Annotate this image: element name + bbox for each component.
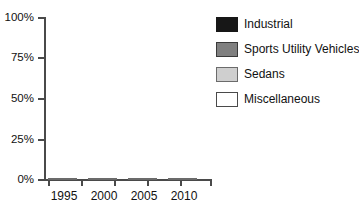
bar-2000[interactable] xyxy=(88,178,117,180)
legend-label-industrial: Industrial xyxy=(244,18,293,31)
bar-2005[interactable] xyxy=(128,178,157,180)
chart-legend: Industrial Sports Utility Vehicles Sedan… xyxy=(216,14,347,114)
y-tick-label-100: 100% xyxy=(5,12,34,24)
bar-segment-2005-miscellaneous xyxy=(128,179,157,180)
legend-swatch-industrial-icon xyxy=(216,17,238,32)
plot-area xyxy=(44,18,207,180)
x-tick-mark-2 xyxy=(114,181,116,186)
y-tick-label-50: 50% xyxy=(11,93,34,105)
legend-item-sports-utility-vehicles[interactable]: Sports Utility Vehicles xyxy=(216,39,347,60)
x-tick-label-1995: 1995 xyxy=(42,190,86,202)
x-tick-label-2005: 2005 xyxy=(122,190,166,202)
legend-item-sedans[interactable]: Sedans xyxy=(216,64,347,85)
legend-label-sedans: Sedans xyxy=(244,68,285,81)
x-tick-label-2000: 2000 xyxy=(82,190,126,202)
bar-2010[interactable] xyxy=(168,178,197,180)
x-tick-mark-3 xyxy=(147,181,149,186)
legend-item-miscellaneous[interactable]: Miscellaneous xyxy=(216,89,347,110)
legend-label-sports-utility-vehicles: Sports Utility Vehicles xyxy=(244,43,359,56)
bar-1995[interactable] xyxy=(48,178,77,180)
legend-label-miscellaneous: Miscellaneous xyxy=(244,93,320,106)
x-tick-mark-4 xyxy=(180,181,182,186)
bar-segment-2010-miscellaneous xyxy=(168,179,197,180)
bar-segment-2000-miscellaneous xyxy=(88,179,117,180)
y-tick-label-25: 25% xyxy=(11,134,34,146)
bar-segment-1995-miscellaneous xyxy=(48,179,77,180)
legend-swatch-suv-icon xyxy=(216,42,238,57)
x-tick-mark-5 xyxy=(210,181,212,186)
y-tick-label-0: 0% xyxy=(17,174,34,186)
y-tick-label-75: 75% xyxy=(11,52,34,64)
x-tick-mark-0 xyxy=(48,181,50,186)
legend-swatch-miscellaneous-icon xyxy=(216,92,238,107)
legend-swatch-sedans-icon xyxy=(216,67,238,82)
legend-item-industrial[interactable]: Industrial xyxy=(216,14,347,35)
x-tick-label-2010: 2010 xyxy=(162,190,206,202)
x-tick-mark-1 xyxy=(81,181,83,186)
